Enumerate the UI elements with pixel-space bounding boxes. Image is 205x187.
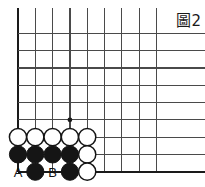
grid-lines: [18, 8, 205, 172]
black-stone: [44, 146, 61, 163]
black-stone: [27, 163, 44, 180]
white-stone: [79, 146, 96, 163]
white-stone: [44, 129, 61, 146]
white-stone: [79, 163, 96, 180]
point-label-a: A: [14, 165, 23, 180]
star-point: [68, 117, 73, 122]
black-stone: [9, 146, 26, 163]
point-label-b: B: [48, 165, 57, 180]
white-stone: [9, 129, 26, 146]
black-stone: [61, 146, 78, 163]
white-stone: [79, 129, 96, 146]
white-stone: [27, 129, 44, 146]
figure-label: 圖2: [176, 14, 201, 29]
go-board-figure: AB 圖2: [0, 0, 205, 187]
white-stone: [61, 129, 78, 146]
black-stone: [61, 163, 78, 180]
black-stone: [27, 146, 44, 163]
go-board-grid: AB: [0, 0, 205, 187]
